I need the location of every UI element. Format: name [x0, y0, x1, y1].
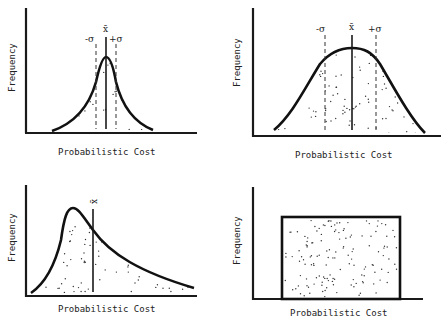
stipple-dot [334, 231, 335, 232]
stipple-dot [85, 72, 86, 73]
stipple-dot [130, 224, 131, 225]
panel-right-skewed: x̄ Probabilistic Cost Frequency [7, 185, 197, 314]
stipple-dot [173, 272, 174, 273]
stipple-dot [89, 232, 90, 233]
stipple-dot [143, 232, 144, 233]
stipple-dot [368, 128, 369, 129]
stipple-dot [170, 291, 171, 292]
stipple-dot [300, 293, 301, 294]
stipple-dot [407, 68, 408, 69]
stipple-dot [311, 116, 312, 117]
stipple-dot [322, 73, 323, 74]
stipple-dot [330, 101, 331, 102]
stipple-dot [70, 240, 71, 241]
stipple-dot [162, 288, 163, 289]
stipple-dot [348, 255, 349, 256]
stipple-dot [310, 220, 311, 221]
stipple-dot [182, 289, 183, 290]
stipple-dot [141, 129, 142, 130]
stipple-dot [330, 120, 331, 121]
stipple-dot [147, 82, 148, 83]
stipple-dot [375, 231, 376, 232]
stipple-dot [189, 264, 190, 265]
stipple-dot [332, 278, 333, 279]
stipple-dot [353, 248, 354, 249]
stipple-dot [328, 221, 329, 222]
stipple-dot [171, 247, 172, 248]
stipple-dot [377, 225, 378, 226]
stipple-dot [352, 251, 353, 252]
stipple-dot [155, 287, 156, 288]
stipple-dot [42, 213, 43, 214]
stipple-dot [105, 269, 106, 270]
stipple-dot [285, 256, 286, 257]
stipple-dot [89, 245, 90, 246]
stipple-dot [292, 289, 293, 290]
x-axis-label: Probabilistic Cost [58, 147, 156, 157]
stipple-dot [285, 253, 286, 254]
stipple-dot [188, 228, 189, 229]
stipple-dot [118, 224, 119, 225]
mean-label: x̄ [89, 199, 99, 204]
stipple-dot [145, 242, 146, 243]
stipple-dot [119, 63, 120, 64]
stipple-dot [306, 285, 307, 286]
stipple-dot [88, 288, 89, 289]
y-axis-label: Frequency [232, 38, 242, 87]
stipple-dot [389, 61, 390, 62]
stipple-dot [181, 217, 182, 218]
stipple-dot [328, 280, 329, 281]
stipple-dot [334, 257, 335, 258]
stipple-dot [319, 228, 320, 229]
stipple-dot [73, 286, 74, 287]
stipple-dot [423, 122, 424, 123]
stipple-dot [361, 274, 362, 275]
stipple-dot [90, 101, 91, 102]
stipple-dot [280, 80, 281, 81]
stipple-dot [46, 252, 47, 253]
stipple-dot [378, 251, 379, 252]
stipple-dot [131, 291, 132, 292]
x-axis-label: Probabilistic Cost [295, 150, 393, 160]
stipple-dot [311, 255, 312, 256]
stipple-dot [394, 76, 395, 77]
stipple-dot [381, 223, 382, 224]
plus-sigma-label: +σ [109, 34, 123, 44]
stipple-fill [274, 50, 425, 135]
stipple-dot [33, 275, 34, 276]
y-axis-label: Frequency [232, 216, 242, 265]
stipple-dot [353, 265, 354, 266]
stipple-dot [158, 224, 159, 225]
stipple-dot [335, 229, 336, 230]
stipple-dot [286, 112, 287, 113]
stipple-dot [121, 73, 122, 74]
stipple-dot [398, 84, 399, 85]
stipple-dot [317, 63, 318, 64]
stipple-dot [321, 285, 322, 286]
stipple-dot [82, 88, 83, 89]
stipple-dot [92, 104, 93, 105]
stipple-dot [169, 288, 170, 289]
stipple-dot [290, 231, 291, 232]
stipple-dot [342, 110, 343, 111]
stipple-dot [298, 250, 299, 251]
stipple-dot [61, 118, 62, 119]
stipple-dot [71, 234, 72, 235]
stipple-dot [324, 290, 325, 291]
stipple-dot [369, 245, 370, 246]
stipple-dot [388, 258, 389, 259]
stipple-dot [303, 259, 304, 260]
stipple-dot [291, 98, 292, 99]
stipple-dot [341, 74, 342, 75]
stipple-dot [122, 61, 123, 62]
stipple-dot [33, 256, 34, 257]
stipple-dot [80, 84, 81, 85]
stipple-dot [334, 224, 335, 225]
stipple-dot [151, 219, 152, 220]
stipple-dot [189, 259, 190, 260]
stipple-dot [408, 65, 409, 66]
stipple-dot [144, 75, 145, 76]
stipple-dot [324, 296, 325, 297]
stipple-dot [138, 279, 139, 280]
stipple-dot [326, 250, 327, 251]
